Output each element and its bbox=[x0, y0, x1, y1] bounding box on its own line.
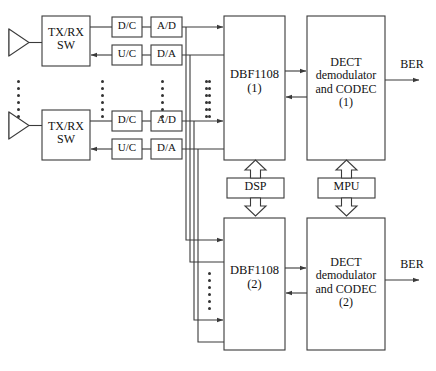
dbf1-column-ellipsis-icon bbox=[208, 80, 211, 122]
txrx-switch-2 bbox=[42, 110, 90, 160]
arrow-dsp-to-dbf1 bbox=[245, 160, 266, 178]
downconverter-1 bbox=[112, 17, 142, 37]
dbf1108-2-box bbox=[224, 218, 285, 350]
dsp-box bbox=[227, 178, 284, 198]
upconverter-1 bbox=[112, 45, 142, 65]
arrow-mpu-to-dect1 bbox=[336, 160, 357, 178]
antenna-column-ellipsis-icon bbox=[17, 80, 20, 122]
txrx-switch-1 bbox=[42, 16, 90, 66]
arrow-mpu-to-dect2 bbox=[336, 198, 357, 216]
downconverter-2 bbox=[112, 111, 142, 131]
switch-column-ellipsis-icon bbox=[101, 80, 104, 122]
dect-codec-2-box bbox=[307, 218, 385, 350]
mpu-box bbox=[318, 178, 375, 198]
dbf1108-1-box bbox=[224, 16, 285, 160]
dect-codec-1-box bbox=[307, 16, 385, 160]
converter-column-ellipsis-icon bbox=[161, 80, 164, 122]
diagram-vector-layer bbox=[0, 0, 436, 371]
vertical-bus-lines bbox=[186, 27, 224, 342]
upconverter-2 bbox=[112, 139, 142, 159]
adc-1 bbox=[151, 17, 182, 37]
dac-1 bbox=[151, 45, 182, 65]
antenna-1 bbox=[9, 29, 42, 56]
adc-2 bbox=[151, 111, 182, 131]
arrow-dsp-to-dbf2 bbox=[245, 198, 266, 216]
block-diagram-canvas: TX/RX SW TX/RX SW D/C A/D U/C D/A D/C A/… bbox=[0, 0, 436, 371]
antenna-2 bbox=[9, 112, 42, 139]
dbf2-column-ellipsis-icon bbox=[208, 272, 211, 314]
dac-2 bbox=[151, 139, 182, 159]
